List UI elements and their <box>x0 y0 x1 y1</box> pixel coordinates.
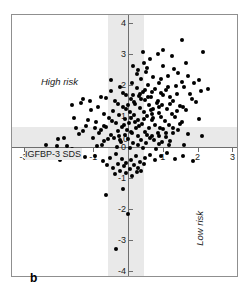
data-point <box>197 117 201 121</box>
data-point <box>131 64 135 68</box>
data-point <box>104 96 108 100</box>
data-point <box>135 170 139 174</box>
data-point <box>145 66 149 70</box>
data-point <box>154 147 158 151</box>
data-point <box>206 87 210 91</box>
data-point <box>131 93 135 97</box>
data-point <box>148 153 152 157</box>
data-point <box>151 75 155 79</box>
data-point <box>180 80 184 84</box>
data-point <box>136 143 140 147</box>
data-point <box>135 86 139 90</box>
data-point <box>147 103 151 107</box>
data-point <box>113 172 117 176</box>
data-point <box>161 93 165 97</box>
data-point <box>130 81 134 85</box>
figure-panel-b: -3-2-10123 -4-3-2-101234 High risk Low r… <box>0 0 251 286</box>
data-point <box>79 101 83 105</box>
data-point <box>116 162 120 166</box>
data-point <box>172 67 176 71</box>
data-point <box>70 103 74 107</box>
data-point <box>184 108 188 112</box>
data-point <box>153 123 157 127</box>
data-point <box>167 143 171 147</box>
data-point <box>201 50 205 54</box>
data-point <box>134 154 138 158</box>
data-point <box>168 102 172 106</box>
data-point <box>148 57 152 61</box>
data-point <box>102 112 106 116</box>
data-point <box>176 128 180 132</box>
data-point <box>97 131 101 135</box>
data-point <box>175 92 179 96</box>
data-point <box>126 212 130 216</box>
data-point <box>118 85 122 89</box>
data-point <box>142 162 146 166</box>
data-point <box>109 78 113 82</box>
data-point <box>165 151 169 155</box>
data-point <box>74 126 78 130</box>
data-point <box>114 247 118 251</box>
y-axis-title: IGFBP-3 SDS <box>25 148 82 160</box>
data-point <box>126 137 130 141</box>
data-point <box>184 61 188 65</box>
data-point <box>157 105 161 109</box>
data-point <box>171 126 175 130</box>
data-point <box>158 126 162 130</box>
data-point <box>136 68 140 72</box>
data-point <box>142 61 146 65</box>
data-point <box>128 167 132 171</box>
data-point <box>173 157 177 161</box>
data-point <box>166 85 170 89</box>
data-point <box>105 163 109 167</box>
data-point <box>168 139 172 143</box>
data-point <box>170 54 174 58</box>
data-point <box>89 108 93 112</box>
data-point <box>128 146 132 150</box>
data-point <box>62 136 66 140</box>
data-point <box>145 114 149 118</box>
data-point <box>138 92 142 96</box>
data-point <box>116 129 120 133</box>
annotation-low-risk: Low risk <box>194 211 205 246</box>
data-point <box>180 38 184 42</box>
data-point <box>178 122 182 126</box>
data-point <box>120 157 124 161</box>
data-point <box>133 120 137 124</box>
data-point <box>161 64 165 68</box>
data-point <box>84 124 88 128</box>
data-point <box>144 70 148 74</box>
data-point <box>175 109 179 113</box>
data-point <box>139 138 143 142</box>
data-point <box>123 117 127 121</box>
data-point <box>199 89 203 93</box>
data-point <box>191 159 195 163</box>
data-point <box>171 131 175 135</box>
data-point <box>93 126 97 130</box>
data-point <box>118 169 122 173</box>
data-point <box>121 91 125 95</box>
data-point <box>104 193 108 197</box>
panel-label: b <box>30 271 37 285</box>
data-point <box>72 116 76 120</box>
data-point <box>93 154 97 158</box>
data-point <box>112 136 116 140</box>
data-point <box>188 92 192 96</box>
data-point <box>164 131 168 135</box>
data-point <box>135 72 139 76</box>
data-point <box>106 137 110 141</box>
data-point <box>173 115 177 119</box>
data-point <box>146 83 150 87</box>
data-point <box>150 90 154 94</box>
data-point <box>95 144 99 148</box>
data-point <box>122 123 126 127</box>
data-point <box>164 135 168 139</box>
data-point <box>181 154 185 158</box>
data-point <box>148 136 152 140</box>
data-point <box>159 154 163 158</box>
data-point <box>100 143 104 147</box>
data-point <box>108 156 112 160</box>
data-point <box>156 52 160 56</box>
plot-frame: -3-2-10123 -4-3-2-101234 High risk Low r… <box>11 14 238 277</box>
data-point <box>141 146 145 150</box>
